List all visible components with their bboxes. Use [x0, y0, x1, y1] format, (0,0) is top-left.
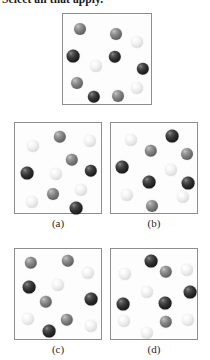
sphere-light: [118, 315, 130, 327]
molecule-box-d[interactable]: [110, 248, 198, 340]
sphere-dark: [88, 91, 100, 103]
sphere-mid: [54, 131, 66, 143]
sphere-mid: [110, 28, 122, 40]
sphere-light: [52, 279, 64, 291]
sphere-light: [177, 191, 189, 203]
sphere-mid: [71, 77, 83, 89]
sphere-dark: [182, 177, 195, 190]
molecule-box-d-contents: [111, 249, 197, 339]
sphere-mid: [40, 296, 52, 308]
sphere-mid: [145, 145, 157, 157]
sphere-mid: [160, 316, 172, 328]
sphere-light: [131, 82, 143, 94]
sphere-light: [85, 320, 97, 332]
sphere-mid: [146, 200, 158, 212]
sphere-dark: [70, 202, 83, 215]
sphere-light: [27, 140, 39, 152]
sphere-mid: [112, 90, 124, 102]
sphere-dark: [145, 255, 158, 268]
sphere-dark: [67, 50, 80, 63]
sphere-light: [119, 268, 131, 280]
sphere-mid: [47, 188, 59, 200]
sphere-light: [165, 164, 177, 176]
sphere-mid: [160, 266, 172, 278]
sphere-light: [22, 313, 34, 325]
molecule-box-a[interactable]: [14, 122, 102, 214]
molecule-box-c-contents: [15, 249, 101, 339]
molecule-box-b[interactable]: [110, 122, 198, 214]
sphere-dark: [21, 167, 34, 180]
sphere-light: [141, 286, 153, 298]
sphere-light: [125, 134, 137, 146]
sphere-mid: [61, 314, 73, 326]
sphere-dark: [43, 325, 56, 338]
sphere-mid: [62, 255, 74, 267]
sphere-dark: [109, 51, 121, 63]
sphere-dark: [85, 293, 98, 306]
molecule-box-reference: [62, 13, 152, 105]
sphere-dark: [137, 63, 149, 75]
sphere-light: [75, 184, 87, 196]
sphere-mid: [66, 154, 78, 166]
sphere-dark: [117, 298, 130, 311]
sphere-light: [121, 189, 133, 201]
sphere-light: [26, 196, 38, 208]
sphere-dark: [159, 297, 172, 310]
sphere-light: [82, 267, 94, 279]
molecule-box-a-contents: [15, 123, 101, 213]
sphere-light: [131, 36, 143, 48]
sphere-light: [181, 264, 193, 276]
sphere-light: [84, 135, 96, 147]
molecule-box-reference-contents: [63, 14, 151, 104]
question-stem: Select all that apply.: [0, 0, 210, 9]
sphere-light: [90, 60, 102, 72]
sphere-light: [182, 314, 194, 326]
sphere-mid: [181, 148, 193, 160]
sphere-light: [50, 168, 62, 180]
sphere-mid: [74, 23, 86, 35]
sphere-dark: [23, 281, 36, 294]
sphere-dark: [143, 176, 156, 189]
sphere-dark: [85, 165, 97, 177]
molecule-box-b-contents: [111, 123, 197, 213]
panel-caption-b: (b): [110, 217, 198, 230]
molecule-box-c[interactable]: [14, 248, 102, 340]
sphere-dark: [184, 286, 197, 299]
sphere-dark: [166, 130, 179, 143]
panel-caption-d: (d): [110, 343, 198, 356]
sphere-dark: [116, 161, 129, 174]
panel-caption-c: (c): [14, 343, 102, 356]
sphere-mid: [25, 257, 37, 269]
question-stem-text: Select all that apply.: [2, 0, 208, 5]
panel-caption-a: (a): [14, 217, 102, 230]
sphere-light: [141, 327, 153, 339]
